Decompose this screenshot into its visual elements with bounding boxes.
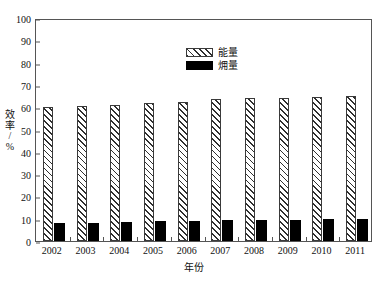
x-tick-label: 2004 <box>109 246 129 256</box>
x-tick-label: 2007 <box>210 246 230 256</box>
y-tick-mark <box>36 42 40 43</box>
y-tick-label: 10 <box>21 216 36 226</box>
y-axis-title-char: 效 <box>3 110 17 121</box>
x-tick-mark <box>238 237 239 241</box>
y-tick-mark <box>36 176 40 177</box>
legend-label: 㶲量 <box>218 61 238 71</box>
y-tick-mark <box>36 64 40 65</box>
x-axis-title: 年份 <box>0 263 387 273</box>
x-tick-label: 2005 <box>143 246 163 256</box>
bar-energy <box>110 105 120 241</box>
y-tick-label: 20 <box>21 193 36 203</box>
black-swatch <box>186 61 213 70</box>
bar-energy <box>346 96 356 241</box>
bar-exergy <box>189 221 200 241</box>
y-axis-title-char: / <box>3 131 17 142</box>
y-tick-mark <box>36 109 40 110</box>
bar-exergy <box>256 220 267 241</box>
x-tick-label: 2011 <box>345 246 365 256</box>
chart-figure: 效率/% 1009080706050403020100 能量㶲量 2002200… <box>0 0 387 287</box>
legend-item: 㶲量 <box>186 60 238 71</box>
x-tick-mark <box>137 237 138 241</box>
legend-item: 能量 <box>186 47 238 58</box>
plot-area: 1009080706050403020100 能量㶲量 <box>35 19 372 242</box>
chart-legend: 能量㶲量 <box>186 47 238 71</box>
bar-exergy <box>222 220 233 241</box>
y-tick-mark <box>36 86 40 87</box>
y-tick-label: 70 <box>21 82 36 92</box>
y-tick-mark <box>36 153 40 154</box>
y-tick-mark <box>36 220 40 221</box>
x-tick-mark <box>205 237 206 241</box>
legend-label: 能量 <box>218 48 238 58</box>
bar-exergy <box>290 220 301 241</box>
y-axis-title: 效率/% <box>3 110 17 152</box>
bar-exergy <box>357 219 368 241</box>
x-tick-mark <box>70 237 71 241</box>
x-tick-mark <box>171 237 172 241</box>
y-tick-label: 80 <box>21 60 36 70</box>
y-tick-mark <box>36 20 40 21</box>
x-tick-mark <box>339 237 340 241</box>
y-tick-label: 40 <box>21 149 36 159</box>
bar-exergy <box>155 221 166 241</box>
bar-exergy <box>88 223 99 242</box>
x-tick-label: 2008 <box>244 246 264 256</box>
y-tick-label: 100 <box>16 15 36 25</box>
bar-exergy <box>121 222 132 241</box>
x-tick-label: 2010 <box>311 246 331 256</box>
x-tick-label: 2006 <box>177 246 197 256</box>
y-tick-mark <box>36 198 40 199</box>
hatched-swatch <box>186 48 213 57</box>
y-tick-label: 30 <box>21 171 36 181</box>
x-tick-mark <box>306 237 307 241</box>
bar-energy <box>178 102 188 241</box>
bar-energy <box>77 106 87 241</box>
bar-energy <box>279 98 289 241</box>
y-tick-label: 0 <box>26 238 36 248</box>
x-tick-mark <box>103 237 104 241</box>
bar-energy <box>43 107 53 241</box>
x-tick-label: 2002 <box>42 246 62 256</box>
y-tick-mark <box>36 243 40 244</box>
x-tick-label: 2009 <box>278 246 298 256</box>
bar-energy <box>211 99 221 241</box>
bar-energy <box>312 97 322 242</box>
y-tick-mark <box>36 131 40 132</box>
y-tick-label: 60 <box>21 104 36 114</box>
y-axis-title-char: % <box>3 142 17 153</box>
y-tick-label: 50 <box>21 127 36 137</box>
bar-energy <box>144 103 154 241</box>
x-tick-mark <box>272 237 273 241</box>
x-tick-label: 2003 <box>76 246 96 256</box>
y-tick-label: 90 <box>21 37 36 47</box>
bar-energy <box>245 98 255 241</box>
bar-exergy <box>54 223 65 241</box>
bar-exergy <box>323 219 334 241</box>
